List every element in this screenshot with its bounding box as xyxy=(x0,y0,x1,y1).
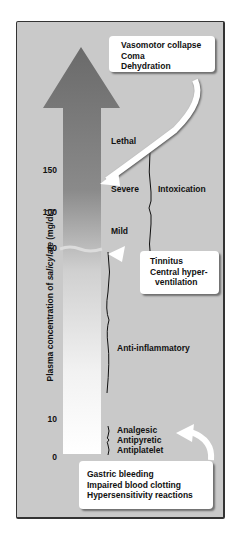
severe-label: Severe xyxy=(111,184,139,194)
analgesic-label: Analgesic xyxy=(117,425,157,435)
antipyretic-label: Antipyretic xyxy=(117,435,161,445)
callout-line: Tinnitus xyxy=(150,256,219,267)
tick-50: 50 xyxy=(33,243,57,253)
callout-line: Vasomotor collapse xyxy=(121,40,215,51)
tick-10: 10 xyxy=(33,414,57,424)
y-axis-label: Plasma concentration of salicylate (mg/d… xyxy=(45,185,55,405)
anti-inflammatory-label: Anti-inflammatory xyxy=(117,343,190,353)
tick-100: 100 xyxy=(33,207,57,217)
callout-line: Gastric bleeding xyxy=(87,469,213,480)
lethal-label: Lethal xyxy=(111,136,136,146)
callout-mild-effects: Tinnitus Central hyper- ventilation xyxy=(140,251,219,294)
callout-line: Dehydration xyxy=(121,61,215,72)
callout-lethal-effects: Vasomotor collapse Coma Dehydration xyxy=(109,36,215,72)
callout-line: Coma xyxy=(121,51,215,62)
callout-line: Impaired blood clotting xyxy=(87,480,213,491)
callout-line: Hypersensitivity reactions xyxy=(87,490,213,501)
tick-0: 0 xyxy=(33,452,57,462)
mild-label: Mild xyxy=(111,226,128,236)
intoxication-label: Intoxication xyxy=(158,184,206,194)
tick-150: 150 xyxy=(33,165,57,175)
callout-adverse-effects: Gastric bleeding Impaired blood clotting… xyxy=(79,461,213,509)
callout-line: ventilation xyxy=(150,277,219,288)
antiplatelet-label: Antiplatelet xyxy=(117,445,163,455)
callout-line: Central hyper- xyxy=(150,267,219,278)
